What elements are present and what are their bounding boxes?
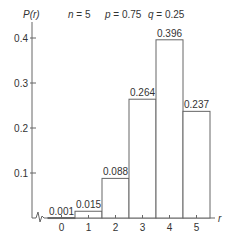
x-tick-label: 3	[140, 222, 146, 233]
param-n: n = 5	[68, 9, 91, 20]
y-axis-label: P(r)	[23, 9, 40, 20]
x-tick-label: 5	[194, 222, 200, 233]
x-axis-label: r	[218, 213, 222, 224]
param-q: q = 0.25	[148, 9, 185, 20]
x-tick-label: 2	[113, 222, 119, 233]
param-p: p = 0.75	[104, 9, 142, 20]
binomial-chart: 0.10.20.30.4 0.0010.0150.0880.2640.3960.…	[0, 0, 236, 241]
bar-4	[156, 40, 183, 218]
bar-value-label: 0.264	[130, 87, 155, 98]
bar-value-label: 0.001	[49, 206, 74, 217]
x-tick-label: 1	[86, 222, 92, 233]
bar-2	[102, 178, 129, 218]
bar-5	[183, 111, 210, 218]
bar-value-label: 0.088	[103, 166, 128, 177]
bar-value-label: 0.237	[184, 99, 209, 110]
x-tick-label: 4	[167, 222, 173, 233]
bar-value-label: 0.396	[157, 28, 182, 39]
y-tick-label: 0.2	[14, 123, 28, 134]
y-tick-label: 0.3	[14, 78, 28, 89]
bar-3	[129, 99, 156, 218]
y-tick-label: 0.1	[14, 168, 28, 179]
x-tick-label: 0	[59, 222, 65, 233]
axis-break-icon	[32, 212, 44, 222]
bars: 0.0010.0150.0880.2640.3960.237	[48, 28, 210, 219]
y-tick-label: 0.4	[14, 33, 28, 44]
bar-value-label: 0.015	[76, 199, 101, 210]
y-ticks: 0.10.20.30.4	[14, 33, 36, 179]
